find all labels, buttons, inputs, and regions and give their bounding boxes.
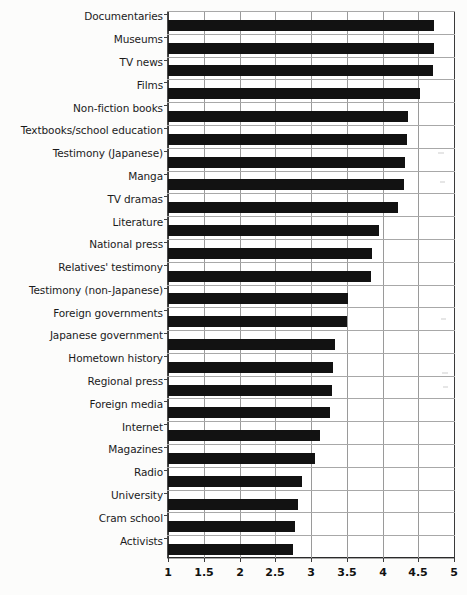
row-separator	[167, 512, 455, 513]
row-separator	[167, 239, 455, 240]
category-label: Cram school	[3, 512, 163, 524]
x-tick-mark	[240, 558, 241, 562]
bar	[168, 499, 298, 510]
x-tick-label: 3	[307, 566, 315, 579]
category-label: Foreign governments	[3, 307, 163, 319]
category-tick	[164, 174, 168, 175]
bar	[168, 157, 405, 168]
category-tick	[164, 470, 168, 471]
category-tick	[164, 493, 168, 494]
row-separator	[167, 57, 455, 58]
category-tick	[164, 424, 168, 425]
bar	[168, 339, 335, 350]
category-label: Foreign media	[3, 398, 163, 410]
row-separator	[167, 535, 455, 536]
category-tick	[164, 60, 168, 61]
x-tick-label: 4.5	[408, 566, 428, 579]
x-tick-mark	[311, 558, 312, 562]
category-tick	[164, 288, 168, 289]
bar	[168, 544, 293, 555]
x-tick-label: 5	[450, 566, 458, 579]
x-tick-label: 4	[379, 566, 387, 579]
category-label: Museums	[3, 33, 163, 45]
bar	[168, 453, 315, 464]
x-tick-label: 2	[236, 566, 244, 579]
row-separator	[167, 102, 455, 103]
category-label: Regional press	[3, 375, 163, 387]
category-tick	[164, 310, 168, 311]
category-label: Internet	[3, 421, 163, 433]
row-separator	[167, 216, 455, 217]
row-separator	[167, 467, 455, 468]
category-label: Films	[3, 79, 163, 91]
row-separator	[167, 11, 455, 12]
category-label: Activists	[3, 535, 163, 547]
bar	[168, 430, 320, 441]
category-tick	[164, 356, 168, 357]
bar	[168, 316, 347, 327]
bar	[168, 407, 330, 418]
category-label: National press	[3, 238, 163, 250]
category-label: Testimony (Japanese)	[3, 147, 163, 159]
row-separator	[167, 125, 455, 126]
scan-artifact	[441, 318, 446, 320]
x-tick-mark	[204, 558, 205, 562]
x-tick-mark	[418, 558, 419, 562]
category-label: Literature	[3, 216, 163, 228]
scan-artifact	[438, 152, 444, 154]
row-separator	[167, 171, 455, 172]
scan-artifact	[440, 181, 445, 183]
x-tick-mark	[275, 558, 276, 562]
bar	[168, 521, 295, 532]
x-tick-mark	[347, 558, 348, 562]
x-tick-label: 2.5	[265, 566, 285, 579]
row-separator	[167, 285, 455, 286]
category-tick	[164, 37, 168, 38]
row-separator	[167, 193, 455, 194]
bar	[168, 179, 404, 190]
category-tick	[164, 14, 168, 15]
category-tick	[164, 196, 168, 197]
category-tick	[164, 538, 168, 539]
bar	[168, 43, 434, 54]
scan-artifact	[443, 386, 448, 388]
row-separator	[167, 34, 455, 35]
row-separator	[167, 421, 455, 422]
category-label: Magazines	[3, 443, 163, 455]
x-tick-mark	[383, 558, 384, 562]
category-tick	[164, 265, 168, 266]
bar	[168, 385, 332, 396]
category-label: Hometown history	[3, 352, 163, 364]
category-axis-labels: DocumentariesMuseumsTV newsFilmsNon-fict…	[0, 0, 163, 560]
category-label: TV dramas	[3, 193, 163, 205]
category-tick	[164, 82, 168, 83]
row-separator	[167, 148, 455, 149]
row-separator	[167, 376, 455, 377]
row-separator	[167, 353, 455, 354]
bar	[168, 20, 434, 31]
row-separator	[167, 444, 455, 445]
row-separator	[167, 79, 455, 80]
row-separator	[167, 307, 455, 308]
category-tick	[164, 515, 168, 516]
bar	[168, 271, 371, 282]
category-tick	[164, 128, 168, 129]
category-tick	[164, 219, 168, 220]
category-label: Manga	[3, 170, 163, 182]
category-tick	[164, 151, 168, 152]
x-tick-mark	[454, 558, 455, 562]
category-label: Documentaries	[3, 10, 163, 22]
bar	[168, 362, 333, 373]
bar	[168, 225, 379, 236]
x-tick-mark	[168, 558, 169, 562]
category-label: University	[3, 489, 163, 501]
bar	[168, 88, 420, 99]
category-label: Japanese government	[3, 329, 163, 341]
scan-artifact	[442, 372, 448, 374]
bar	[168, 111, 408, 122]
category-tick	[164, 379, 168, 380]
x-tick-label: 1.5	[194, 566, 214, 579]
bar	[168, 248, 372, 259]
category-tick	[164, 447, 168, 448]
category-label: Textbooks/school education	[3, 124, 163, 136]
